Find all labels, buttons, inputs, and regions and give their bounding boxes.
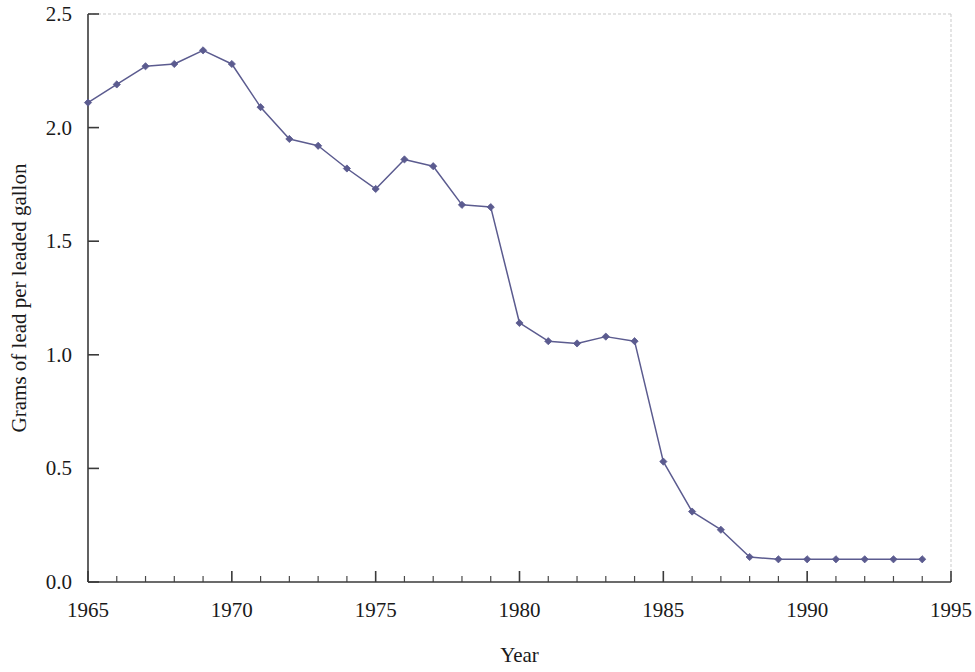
x-axis-title: Year — [500, 643, 539, 667]
axis-lines — [88, 14, 951, 582]
y-tick-label: 0.0 — [46, 570, 72, 594]
data-point-marker — [689, 508, 696, 515]
data-series — [84, 47, 925, 563]
x-tick-label: 1980 — [499, 598, 541, 622]
x-tick-label: 1985 — [642, 598, 684, 622]
axis-tick-labels: 19651970197519801985199019950.00.51.01.5… — [46, 2, 972, 622]
data-point-marker — [804, 556, 811, 563]
data-point-marker — [171, 60, 178, 67]
data-point-marker — [545, 338, 552, 345]
data-point-marker — [861, 556, 868, 563]
y-tick-label: 1.5 — [46, 229, 72, 253]
y-tick-label: 2.0 — [46, 116, 72, 140]
data-point-marker — [631, 338, 638, 345]
x-tick-label: 1965 — [67, 598, 109, 622]
chart-plot-area: 19651970197519801985199019950.00.51.01.5… — [0, 0, 975, 672]
series-line-0 — [88, 50, 922, 559]
data-point-marker — [573, 340, 580, 347]
plot-frame — [88, 14, 951, 582]
data-point-marker — [890, 556, 897, 563]
axis-titles: YearGrams of lead per leaded gallon — [7, 163, 539, 667]
data-point-marker — [199, 47, 206, 54]
data-point-marker — [919, 556, 926, 563]
data-point-marker — [516, 319, 523, 326]
data-point-marker — [602, 333, 609, 340]
data-point-marker — [113, 81, 120, 88]
chart-figure: 19651970197519801985199019950.00.51.01.5… — [0, 0, 975, 672]
x-tick-label: 1970 — [211, 598, 253, 622]
data-point-marker — [142, 63, 149, 70]
data-point-marker — [487, 204, 494, 211]
y-tick-label: 2.5 — [46, 2, 72, 26]
y-tick-label: 0.5 — [46, 456, 72, 480]
axis-ticks — [88, 14, 951, 582]
data-point-marker — [84, 99, 91, 106]
y-axis-title: Grams of lead per leaded gallon — [7, 163, 31, 432]
data-point-marker — [775, 556, 782, 563]
y-tick-label: 1.0 — [46, 343, 72, 367]
x-tick-label: 1975 — [355, 598, 397, 622]
data-point-marker — [660, 458, 667, 465]
data-point-marker — [832, 556, 839, 563]
x-tick-label: 1995 — [930, 598, 972, 622]
x-tick-label: 1990 — [786, 598, 828, 622]
